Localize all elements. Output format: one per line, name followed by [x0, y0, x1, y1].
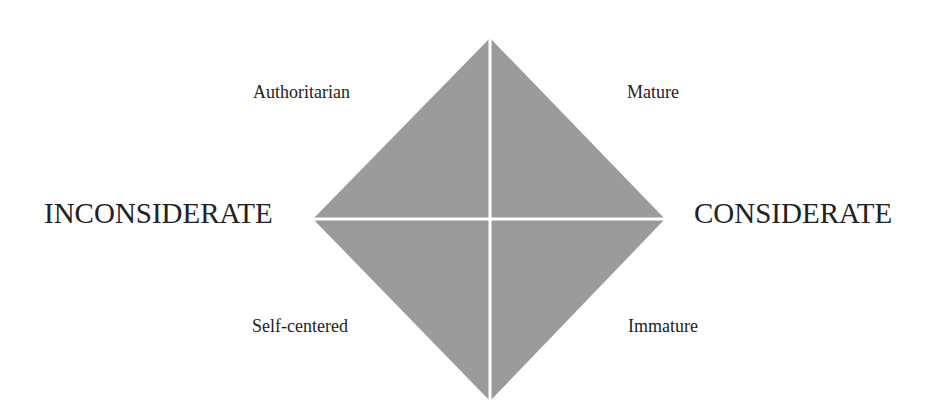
axis-label-considerate: CONSIDERATE	[694, 199, 892, 228]
quadrant-label-self-centered: Self-centered	[252, 317, 348, 335]
quadrant-label-immature: Immature	[628, 317, 698, 335]
quadrant-label-mature: Mature	[627, 83, 679, 101]
quadrant-label-authoritarian: Authoritarian	[253, 83, 350, 101]
axis-label-inconsiderate: INCONSIDERATE	[44, 199, 273, 228]
